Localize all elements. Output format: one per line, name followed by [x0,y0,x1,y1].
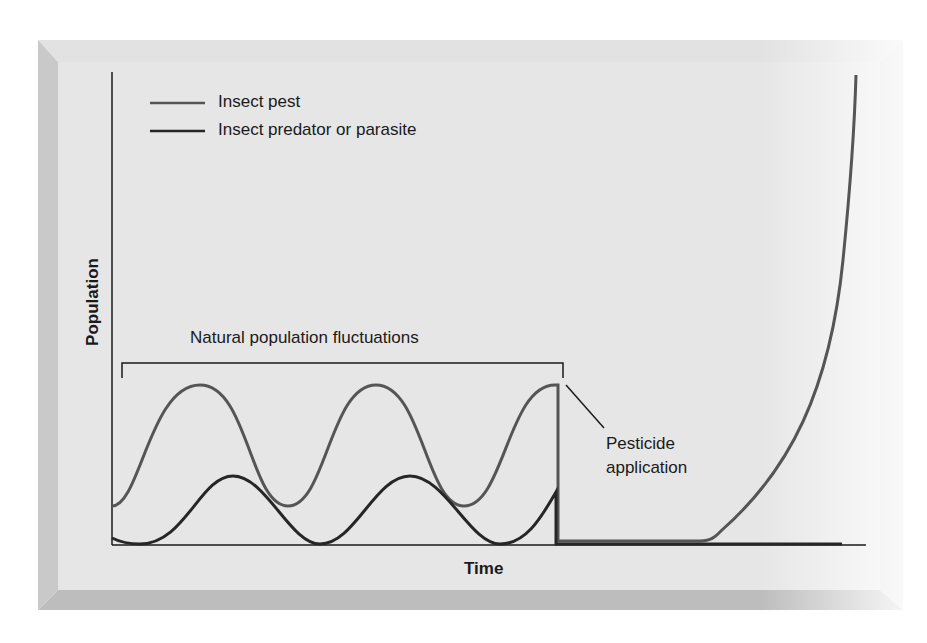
callout-label-line1: Pesticide [606,434,675,454]
chart-figure [0,0,927,643]
bracket-label: Natural population fluctuations [190,328,419,348]
legend-label-predator: Insect predator or parasite [218,120,416,140]
x-axis-title: Time [464,559,503,579]
callout-label-line2: application [606,458,687,478]
frame-bevel [38,36,927,616]
y-axis-title: Population [83,247,103,357]
legend-label-pest: Insect pest [218,92,300,112]
